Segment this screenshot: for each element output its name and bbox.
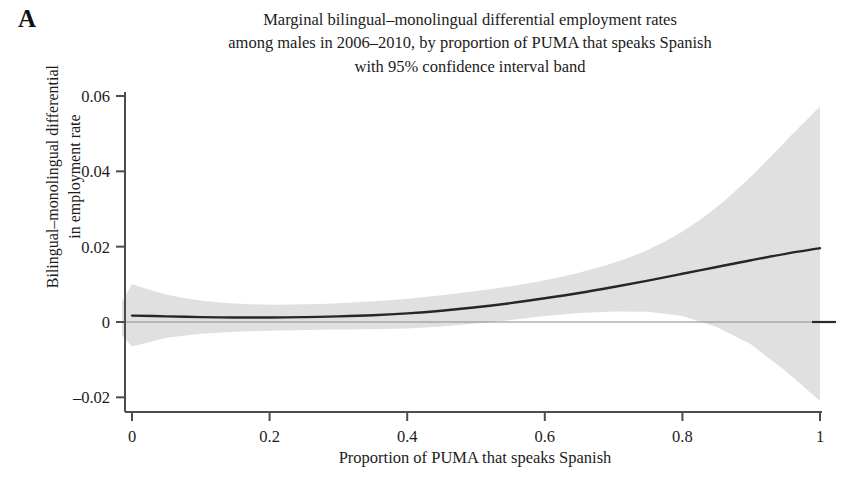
confidence-band-shape bbox=[132, 107, 820, 402]
y-tick-label: 0 bbox=[102, 313, 110, 332]
y-axis-title-line-1: Bilingual–monolingual differential bbox=[42, 27, 64, 327]
figure-title-line-2: among males in 2006–2010, by proportion … bbox=[120, 31, 820, 54]
confidence-band bbox=[122, 107, 820, 402]
confidence-band-left-flare bbox=[122, 284, 132, 346]
x-tick-label: 1 bbox=[816, 427, 824, 446]
x-tick-label: 0.2 bbox=[259, 427, 280, 446]
y-axis-title-line-2: in employment rate bbox=[64, 27, 86, 327]
y-axis-title: Bilingual–monolingual differential in em… bbox=[42, 27, 85, 327]
x-axis-ticks: 00.20.40.60.81 bbox=[128, 412, 824, 446]
x-tick-label: 0.4 bbox=[397, 427, 418, 446]
x-tick-label: 0.8 bbox=[672, 427, 693, 446]
panel-label: A bbox=[18, 6, 36, 31]
figure-title: Marginal bilingual–monolingual different… bbox=[120, 8, 820, 78]
figure-title-line-1: Marginal bilingual–monolingual different… bbox=[120, 8, 820, 31]
figure-panel-a: A Marginal bilingual–monolingual differe… bbox=[0, 0, 844, 483]
x-tick-label: 0 bbox=[128, 427, 136, 446]
x-axis-title: Proportion of PUMA that speaks Spanish bbox=[125, 448, 825, 468]
y-tick-label: –0.02 bbox=[72, 388, 110, 407]
x-tick-label: 0.6 bbox=[534, 427, 555, 446]
figure-title-line-3: with 95% confidence interval band bbox=[120, 55, 820, 78]
